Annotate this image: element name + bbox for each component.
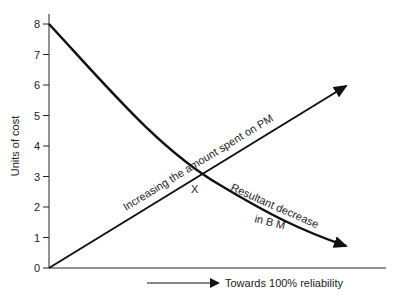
svg-text:2: 2	[34, 201, 40, 213]
svg-text:6: 6	[34, 79, 40, 91]
svg-text:5: 5	[34, 110, 40, 122]
svg-text:3: 3	[34, 171, 40, 183]
pm-line	[49, 86, 346, 268]
cost-chart: 0 1 2 3 4 5 6 7 8 Units of cost Increasi…	[0, 0, 399, 302]
y-ticks	[43, 24, 49, 268]
intersection-label: X	[191, 183, 199, 195]
svg-text:4: 4	[34, 140, 40, 152]
y-tick-labels: 0 1 2 3 4 5 6 7 8	[34, 18, 40, 274]
y-axis-label: Units of cost	[9, 116, 21, 177]
svg-text:0: 0	[34, 262, 40, 274]
x-axis-label: Towards 100% reliability	[225, 277, 343, 289]
svg-text:7: 7	[34, 49, 40, 61]
svg-text:8: 8	[34, 18, 40, 30]
svg-text:1: 1	[34, 232, 40, 244]
